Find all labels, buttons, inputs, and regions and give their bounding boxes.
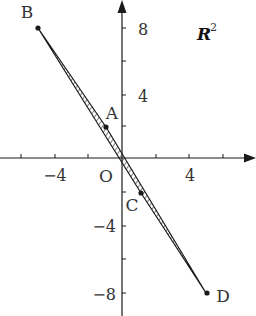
point-c-label: C bbox=[125, 195, 138, 215]
point-d: D bbox=[204, 286, 229, 306]
coordinate-diagram: B A C D O −4 4 8 4 −4 −8 R 2 bbox=[0, 0, 256, 316]
x-tick-label-neg4: −4 bbox=[43, 166, 67, 185]
x-tick-label-4: 4 bbox=[185, 166, 195, 185]
y-tick-label-8: 8 bbox=[138, 20, 148, 39]
origin-label: O bbox=[99, 166, 113, 186]
y-tick-label-neg4: −4 bbox=[92, 217, 116, 236]
y-tick-label-4: 4 bbox=[138, 87, 148, 106]
x-axis-arrow-icon bbox=[244, 154, 256, 163]
point-b-dot bbox=[35, 25, 40, 30]
point-c: C bbox=[125, 190, 143, 215]
space-label: R 2 bbox=[196, 21, 217, 44]
x-axis bbox=[0, 154, 256, 163]
point-b-label: B bbox=[21, 2, 34, 22]
point-a-label: A bbox=[105, 103, 119, 123]
y-tick-label-neg8: −8 bbox=[92, 285, 116, 304]
point-d-dot bbox=[204, 290, 209, 295]
point-a-dot bbox=[103, 124, 108, 129]
point-a: A bbox=[103, 103, 118, 130]
point-d-label: D bbox=[216, 286, 230, 306]
space-label-r: R bbox=[196, 24, 211, 44]
point-c-dot bbox=[138, 190, 143, 195]
space-label-superscript: 2 bbox=[210, 21, 217, 34]
point-b: B bbox=[21, 2, 41, 31]
y-axis-arrow-icon bbox=[118, 0, 127, 13]
